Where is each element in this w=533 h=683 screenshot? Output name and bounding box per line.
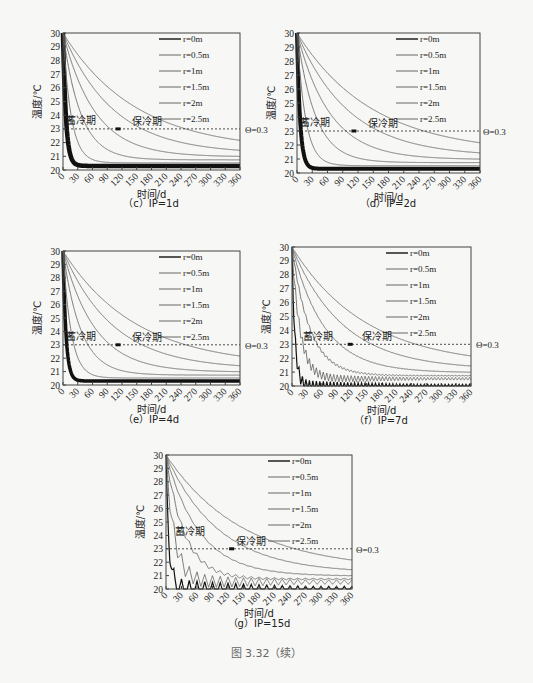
- x-tick-label: 0: [159, 590, 170, 601]
- x-tick-label: 270: [292, 590, 309, 607]
- y-tick-label: 22: [154, 558, 164, 568]
- series-line: [166, 455, 352, 576]
- x-tick-label: 120: [214, 590, 231, 607]
- series-line: [166, 455, 352, 589]
- x-tick-label: 300: [307, 590, 324, 607]
- legend-label: r=1m: [292, 488, 312, 498]
- legend-label: r=0m: [292, 456, 312, 466]
- marker-point: [229, 547, 234, 550]
- series-line: [166, 455, 352, 580]
- legend-label: r=2.5m: [292, 536, 318, 546]
- x-tick-label: 330: [323, 590, 340, 607]
- y-tick-label: 21: [154, 571, 164, 581]
- x-tick-label: 210: [261, 590, 278, 607]
- y-tick-label: 30: [154, 451, 164, 461]
- x-tick-label: 240: [276, 590, 293, 607]
- x-tick-label: 180: [245, 590, 262, 607]
- plot-frame: [166, 455, 352, 589]
- x-tick-label: 60: [187, 590, 201, 604]
- x-tick-label: 90: [202, 590, 216, 604]
- legend-label: r=2m: [292, 520, 312, 530]
- x-tick-label: 30: [171, 590, 185, 604]
- y-tick-label: 25: [154, 518, 164, 528]
- retention-period-label: 保冷期: [236, 535, 266, 547]
- y-tick-label: 27: [154, 491, 164, 501]
- y-axis-label: 温度/℃: [134, 505, 146, 540]
- legend-label: r=1.5m: [292, 504, 318, 514]
- y-tick-label: 26: [154, 504, 164, 514]
- legend-label: r=0.5m: [292, 472, 318, 482]
- threshold-label: Θ=0.3: [356, 545, 379, 555]
- y-tick-label: 28: [154, 477, 164, 487]
- panel-caption: （g）IP=15d: [228, 618, 291, 629]
- y-tick-label: 23: [154, 544, 164, 554]
- x-tick-label: 150: [230, 590, 247, 607]
- x-tick-label: 360: [338, 590, 355, 607]
- figure-caption: 图 3.32（续）: [0, 644, 533, 660]
- chart-g: 2021222324252627282930030609012015018021…: [0, 0, 533, 683]
- storage-period-label: 蓄冷期: [175, 525, 205, 537]
- y-tick-label: 24: [154, 531, 164, 541]
- y-tick-label: 29: [154, 464, 164, 474]
